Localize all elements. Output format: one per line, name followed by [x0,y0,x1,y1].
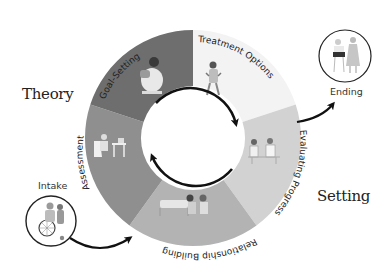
setting-label: Setting [317,187,370,205]
intake-to-ring-arrow [70,238,130,248]
ring-to-ending-arrow [297,104,333,122]
cycle-diagram: Goal-Setting Treatment Options Evaluatin… [0,0,389,275]
clockwise-cycle-icon [152,88,236,186]
theory-label: Theory [22,85,73,103]
intake-label: Intake [38,180,67,191]
intake-node[interactable] [26,196,76,246]
therapy-process-diagram: Goal-Setting Treatment Options Evaluatin… [0,0,389,275]
ending-node[interactable] [319,30,371,82]
ending-label: Ending [330,86,363,97]
